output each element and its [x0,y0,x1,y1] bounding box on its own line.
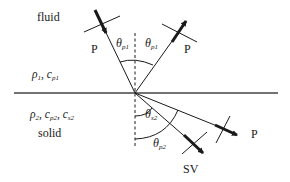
transmitted-sv-ray [135,93,207,154]
solid-label: solid [38,127,61,139]
diagram-graphics [0,0,290,182]
cs2-sub: s2 [68,114,74,122]
theta-reflected-label: θp1 [145,37,158,51]
fluid-properties: ρ1, cp1 [32,69,59,82]
fluid-label: fluid [37,11,60,23]
theta-sub: p1 [151,43,158,51]
theta-sub: p2 [159,143,166,151]
reflected-p-ray [135,21,197,93]
theta-p2-label: θp2 [153,137,166,151]
transmitted-p-label: P [251,128,258,140]
theta-incident-label: θp1 [116,37,129,51]
wavefront-reflected [162,24,197,42]
solid-properties: ρ2, cp2, cs2 [30,109,74,122]
reflected-p-label: P [184,43,191,55]
arc-incident-reflected [120,60,153,65]
transmitted-sv-label: SV [183,163,198,175]
cp2-sub: p2 [50,114,57,122]
cp1-sub: p1 [52,74,59,82]
incident-p-label: P [91,43,98,55]
theta-sub: p1 [122,43,129,51]
wave-diagram: fluid solid ρ1, cp1 ρ2, cp2, cs2 P P P S… [0,0,290,182]
theta-s2-label: θs2 [145,108,157,122]
theta-sub: s2 [151,114,157,122]
wavefront-incident [84,16,120,32]
